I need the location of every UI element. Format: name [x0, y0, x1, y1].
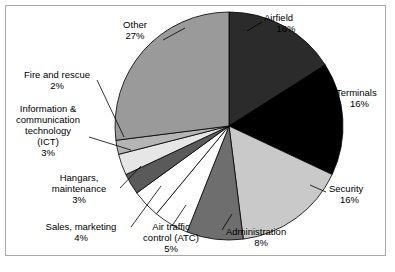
slice-label-other: Other 27%	[111, 19, 159, 41]
slice-label-administration: Administration 8%	[226, 226, 296, 248]
slice-label-airfield: Airfield 16%	[264, 12, 308, 34]
slice-label-fire: Fire and rescue 2%	[18, 69, 96, 91]
slice-label-atc: Air traffic control (ATC) 5%	[131, 221, 211, 254]
slice-label-terminals: Terminals 16%	[336, 87, 383, 109]
slice-label-ict: Information & communication technology (…	[8, 103, 88, 158]
pie-chart-figure: Airfield 16% Terminals 16% Security 16% …	[0, 0, 395, 272]
slice-label-sales: Sales, marketing 4%	[35, 221, 127, 243]
pie-slices	[115, 12, 343, 240]
slice-label-hangars: Hangars, maintenance 3%	[40, 172, 118, 205]
slice-label-security: Security 16%	[329, 183, 370, 205]
